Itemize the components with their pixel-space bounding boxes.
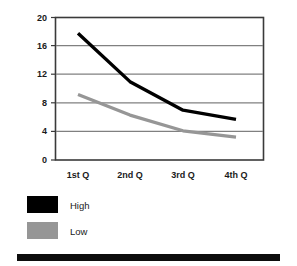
footer-bar [17,254,280,261]
ytick-label-20: 20 [37,13,47,23]
xtick-label-3rd-q: 3rd Q [171,170,195,180]
ytick-label-8: 8 [42,98,47,108]
legend-label-low: Low [70,226,88,237]
ytick-label-4: 4 [42,126,47,136]
ytick-label-0: 0 [42,155,47,165]
legend-swatch-low [27,222,58,239]
xtick-label-4th-q: 4th Q [224,170,247,180]
chart-figure: 0 4 8 12 16 20 1st Q 2nd Q 3rd Q 4th Q H… [0,0,297,266]
legend-label-high: High [70,200,90,211]
line-chart-svg: 0 4 8 12 16 20 1st Q 2nd Q 3rd Q 4th Q H… [0,0,297,266]
ytick-label-16: 16 [37,41,47,51]
ytick-label-12: 12 [37,69,47,79]
xtick-label-1st-q: 1st Q [67,170,90,180]
legend-swatch-high [27,196,58,213]
xtick-label-2nd-q: 2nd Q [117,170,143,180]
